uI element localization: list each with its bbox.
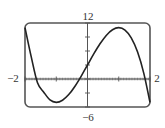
graphing-calculator-window: 12 −6 −2 2	[0, 0, 165, 128]
y-max-label: 12	[83, 10, 94, 22]
y-min-label: −6	[82, 111, 94, 123]
x-min-label: −2	[7, 72, 19, 84]
x-max-label: 2	[154, 72, 160, 84]
